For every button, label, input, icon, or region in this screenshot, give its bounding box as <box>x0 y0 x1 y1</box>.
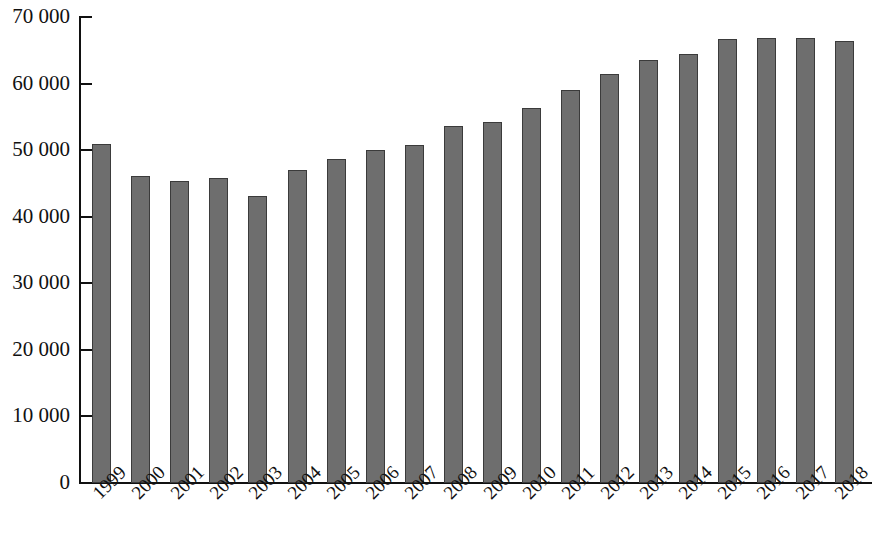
y-axis-tick-label: 20 000 <box>0 339 70 360</box>
y-axis-tick-label: 50 000 <box>0 139 70 160</box>
y-axis-tick-label: 0 <box>0 472 70 493</box>
bar-2005 <box>327 159 346 483</box>
bar-2012 <box>600 74 619 483</box>
y-axis-tick-label: 40 000 <box>0 206 70 227</box>
bar-2017 <box>796 38 815 483</box>
bar-2016 <box>757 38 776 483</box>
plot-area <box>80 10 872 483</box>
bar-1999 <box>92 144 111 483</box>
y-axis-tick-label: 30 000 <box>0 272 70 293</box>
bar-2007 <box>405 145 424 483</box>
bar-2010 <box>522 108 541 483</box>
bar-2000 <box>131 176 150 483</box>
bar-2006 <box>366 150 385 483</box>
bar-2008 <box>444 126 463 483</box>
y-axis-tick-label: 10 000 <box>0 405 70 426</box>
bar-2001 <box>170 181 189 483</box>
bar-2018 <box>835 41 854 483</box>
y-axis-tick-label: 70 000 <box>0 6 70 27</box>
y-axis-tick-label: 60 000 <box>0 73 70 94</box>
bar-2009 <box>483 122 502 483</box>
bar-2011 <box>561 90 580 483</box>
bar-chart-figure: 010 00020 00030 00040 00050 00060 00070 … <box>0 0 881 533</box>
bar-2002 <box>209 178 228 483</box>
bar-2004 <box>288 170 307 483</box>
bar-2014 <box>679 54 698 483</box>
bar-2013 <box>639 60 658 483</box>
bar-2003 <box>248 196 267 483</box>
bar-2015 <box>718 39 737 483</box>
